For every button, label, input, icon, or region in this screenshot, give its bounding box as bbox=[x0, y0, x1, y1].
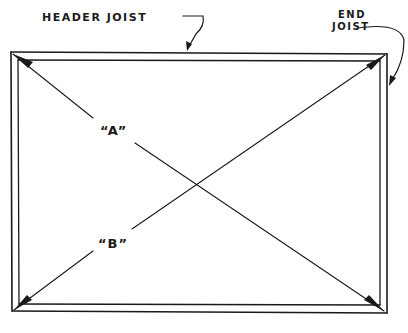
arrowhead-b-bottom-left bbox=[14, 295, 32, 310]
diagonal-a-label: “A” bbox=[98, 124, 129, 137]
end-joist-label-line2: JOIST bbox=[332, 22, 369, 32]
end-joist-arrowhead bbox=[389, 75, 396, 86]
floor-frame-diagram bbox=[0, 0, 408, 333]
end-joist-label-line1: END bbox=[338, 10, 366, 20]
diagonal-b-line bbox=[14, 55, 385, 310]
arrowhead-a-bottom-right bbox=[364, 295, 384, 311]
arrowhead-b-top-right bbox=[366, 55, 385, 70]
header-joist-leader bbox=[183, 16, 203, 48]
diagonal-a-line bbox=[13, 54, 384, 311]
diagonal-b-label: “B” bbox=[96, 237, 130, 250]
header-joist-label: HEADER JOIST bbox=[42, 12, 147, 23]
arrowhead-a-top-left bbox=[13, 54, 33, 68]
